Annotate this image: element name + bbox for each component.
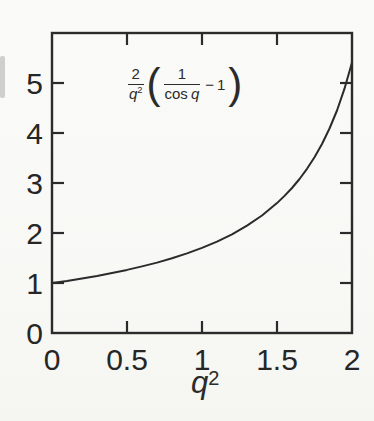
- outer-fraction-numerator: 2: [129, 66, 143, 82]
- inner-fraction-denominator: cos q: [164, 86, 201, 102]
- x-tick-label: 2: [344, 343, 361, 376]
- y-tick-label: 5: [26, 67, 43, 100]
- x-tick-label: 0.5: [106, 343, 148, 376]
- close-paren: ): [228, 63, 242, 106]
- constant-one: 1: [217, 76, 225, 93]
- superscript-2: 2: [137, 85, 142, 95]
- outer-fraction-denominator: q2: [128, 86, 144, 102]
- variable-q: q: [191, 365, 208, 400]
- x-axis-label: q2: [191, 367, 219, 398]
- variable-q: q: [191, 85, 199, 102]
- cos-function: cos: [165, 85, 188, 102]
- minus-sign: −: [205, 76, 214, 93]
- y-tick-label: 1: [26, 267, 43, 300]
- outer-fraction: 2 q2: [128, 66, 144, 102]
- scanned-plot-figure: 00.511.52012345 2 q2 ( 1 cos q − 1 ) q2: [0, 0, 374, 421]
- y-tick-label: 0: [26, 317, 43, 350]
- y-tick-label: 3: [26, 167, 43, 200]
- x-tick-label: 1.5: [256, 343, 298, 376]
- y-tick-label: 2: [26, 217, 43, 250]
- open-paren: (: [147, 63, 161, 106]
- inner-fraction-numerator: 1: [175, 66, 189, 82]
- superscript-2: 2: [208, 367, 219, 389]
- formula-annotation: 2 q2 ( 1 cos q − 1 ): [128, 60, 242, 108]
- x-tick-label: 0: [44, 343, 61, 376]
- y-tick-label: 4: [26, 117, 43, 150]
- inner-fraction: 1 cos q: [164, 66, 201, 102]
